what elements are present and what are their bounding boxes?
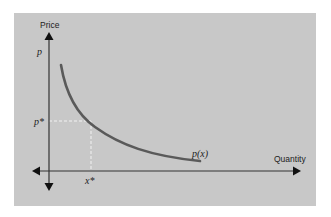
y-axis-up-arrow-icon [45,32,54,40]
equilibrium-quantity-label: x* [84,175,94,186]
price-axis-label: Price [40,20,60,30]
quantity-axis-label: Quantity [274,154,306,164]
price-symbol: p [36,46,42,57]
curve-label: p(x) [191,148,209,160]
y-axis-down-arrow-icon [45,183,54,191]
demand-curve [61,65,200,161]
x-axis-left-arrow-icon [32,167,40,176]
equilibrium-price-label: p* [33,116,44,127]
x-axis-right-arrow-icon [293,167,301,176]
demand-curve-diagram: Price Quantity p p* x* p(x) [0,0,331,217]
